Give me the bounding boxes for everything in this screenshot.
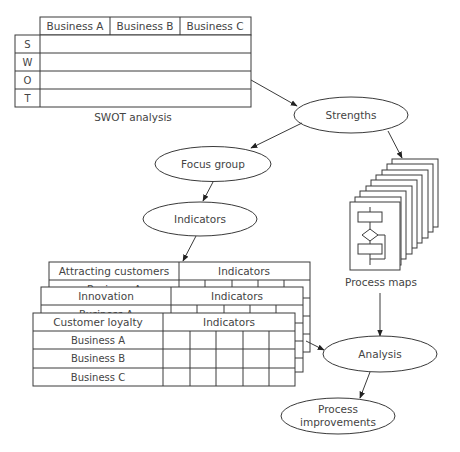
indicator-table-customer-loyalty: Customer loyalty Indicators Business A B… bbox=[33, 313, 295, 386]
table-row-business-c: Business C bbox=[71, 372, 125, 383]
node-indicators: Indicators bbox=[143, 202, 257, 236]
swot-col-business-a: Business A bbox=[47, 20, 105, 32]
arrow-strengths-to-focus-group bbox=[251, 123, 302, 148]
process-maps-stack: Process maps bbox=[345, 159, 438, 288]
arrow-focus-group-to-indicators bbox=[203, 182, 213, 201]
table-row-business-a: Business A bbox=[71, 335, 125, 346]
swot-table: Business A Business B Business C S W O T… bbox=[15, 17, 251, 123]
strengths-label: Strengths bbox=[326, 109, 377, 121]
node-strengths: Strengths bbox=[294, 97, 408, 133]
arrow-analysis-to-process-improvements bbox=[360, 372, 370, 398]
node-process-improvements: Process improvements bbox=[281, 398, 395, 434]
process-improvements-label-line2: improvements bbox=[300, 416, 376, 428]
arrow-indicators-to-tables bbox=[183, 236, 196, 261]
process-improvements-label-line1: Process bbox=[318, 403, 358, 415]
table-title: Customer loyalty bbox=[53, 316, 143, 328]
focus-group-label: Focus group bbox=[181, 158, 245, 170]
table-header-indicators: Indicators bbox=[203, 316, 255, 328]
table-header-indicators: Indicators bbox=[211, 290, 263, 302]
process-flow-diagram: Business A Business B Business C S W O T… bbox=[0, 0, 460, 452]
swot-row-s: S bbox=[24, 39, 30, 50]
node-analysis: Analysis bbox=[323, 336, 437, 372]
table-title: Attracting customers bbox=[59, 265, 169, 277]
table-row-business-b: Business B bbox=[71, 353, 125, 364]
arrow-strengths-to-process-maps bbox=[388, 131, 402, 158]
indicators-label: Indicators bbox=[174, 213, 226, 225]
table-title: Innovation bbox=[78, 290, 134, 302]
node-focus-group: Focus group bbox=[155, 147, 271, 182]
swot-row-o: O bbox=[24, 75, 32, 86]
arrow-swot-to-strengths bbox=[251, 80, 297, 106]
swot-col-business-b: Business B bbox=[117, 20, 174, 32]
swot-row-w: W bbox=[23, 57, 33, 68]
process-maps-label: Process maps bbox=[345, 276, 417, 288]
swot-caption: SWOT analysis bbox=[94, 111, 172, 123]
swot-row-t: T bbox=[23, 93, 31, 104]
swot-col-business-c: Business C bbox=[187, 20, 244, 32]
table-header-indicators: Indicators bbox=[218, 265, 270, 277]
analysis-label: Analysis bbox=[358, 348, 401, 360]
